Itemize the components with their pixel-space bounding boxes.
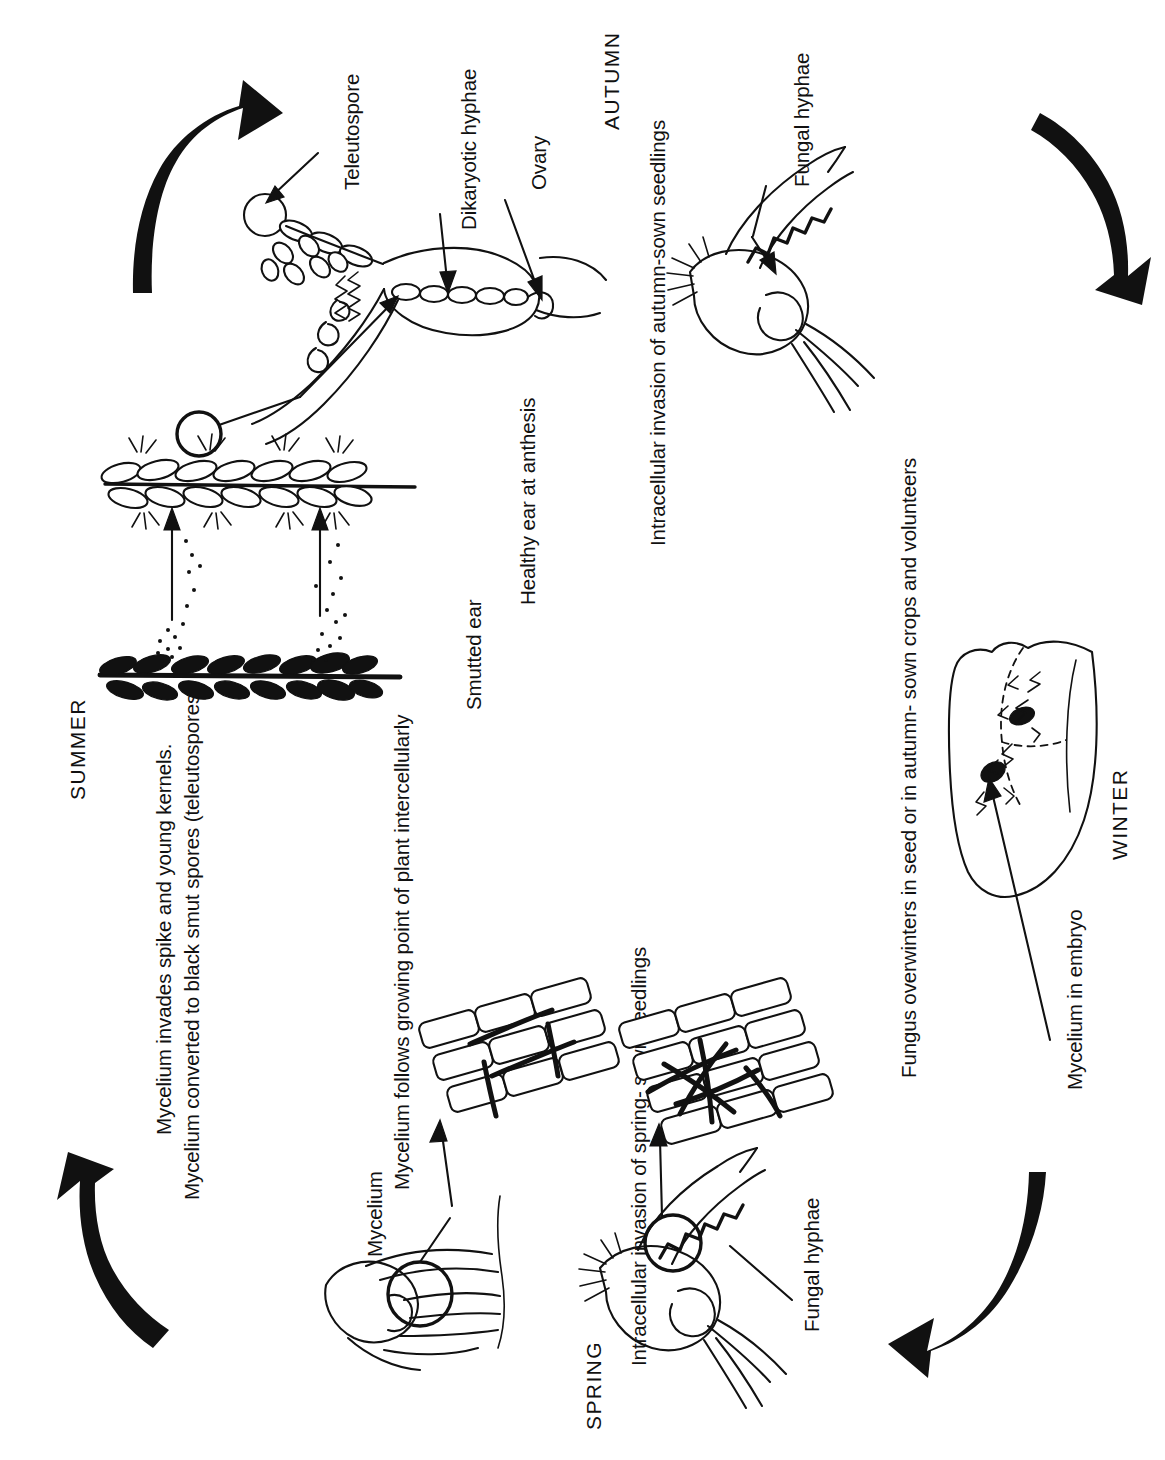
cell-tissue-invaded — [618, 977, 835, 1146]
spring-seedling — [579, 1124, 792, 1408]
cell-tissue-intercellular — [418, 977, 621, 1206]
spring-illustration — [0, 0, 1165, 1460]
growing-point-seedling — [325, 1196, 504, 1370]
diagram-canvas: SUMMER Mycelium invades spike and young … — [0, 0, 1165, 1460]
